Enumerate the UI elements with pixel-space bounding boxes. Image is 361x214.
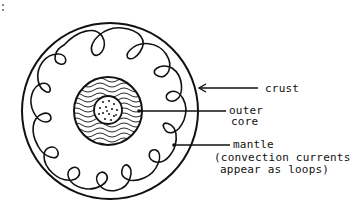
label-mantle: mantle <box>233 138 274 151</box>
corner-mark <box>2 4 4 11</box>
mantle-leader <box>172 143 230 147</box>
label-crust: crust <box>265 82 299 95</box>
inner-core <box>94 96 122 124</box>
outer-core-leader <box>137 109 226 113</box>
label-mantle-note-line2: appear as loops) <box>220 163 329 176</box>
label-outer-core-line2: core <box>231 115 258 128</box>
crust-arrow <box>199 84 258 92</box>
earth-layers-diagram: crust outer core mantle (convection curr… <box>0 0 361 214</box>
